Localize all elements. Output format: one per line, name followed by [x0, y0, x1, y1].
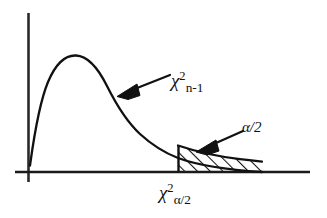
- tail-arrowhead: [196, 140, 219, 155]
- curve-arrow: [117, 75, 170, 100]
- curve-arrowhead: [117, 84, 140, 100]
- curve-label-subscript: n-1: [186, 80, 204, 95]
- critical-value-label: χ2α/2: [159, 182, 191, 206]
- critical-value-label-subscript: α/2: [174, 192, 191, 207]
- tail-arrow: [196, 131, 243, 155]
- curve-label: χ2n-1: [171, 70, 203, 94]
- density-curve: [30, 55, 262, 172]
- chi-square-figure: χ2n-1 α/2 χ2α/2: [0, 0, 327, 218]
- tail-area-label: α/2: [242, 120, 262, 135]
